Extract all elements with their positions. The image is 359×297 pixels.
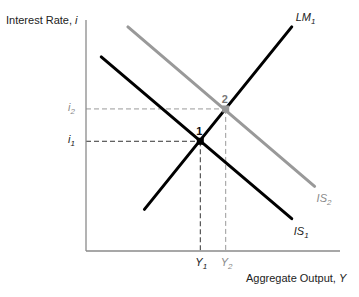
curve-is2 [128,27,315,186]
equilibrium-point-2 [222,105,229,112]
chart-canvas: Interest Rate, i Aggregate Output, Y LM1… [0,0,359,297]
y-axis-label: Interest Rate, i [6,14,78,26]
is-lm-diagram: Interest Rate, i Aggregate Output, Y LM1… [0,0,359,297]
equilibrium-label-2: 2 [222,93,228,105]
label-is1: IS1 [294,225,309,240]
x-tick-y1: Y1 [195,256,207,271]
label-lm1: LM1 [296,11,316,26]
equilibrium-label-1: 1 [196,125,202,137]
curve-is1 [101,57,292,219]
y-tick-i2: i2 [68,101,75,116]
label-is2: IS2 [317,192,332,207]
y-tick-i1: i1 [68,133,75,148]
equilibrium-point-1 [197,138,204,145]
curve-lm1 [144,27,291,209]
x-tick-y2: Y2 [221,256,233,271]
x-axis-label: Aggregate Output, Y [246,272,347,284]
